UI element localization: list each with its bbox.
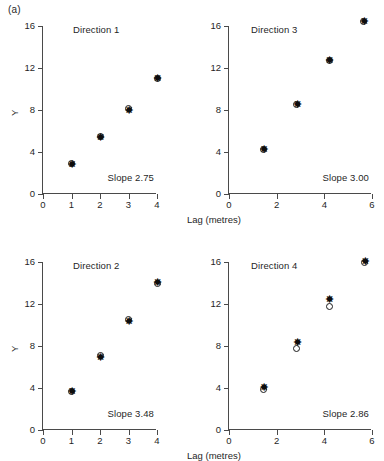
asterisk-marker: ✸ [68,161,76,169]
x-tick-label: 0 [35,436,51,446]
y-tick [38,304,43,305]
x-tick-label: 2 [92,436,108,446]
y-tick-label: 4 [19,147,35,157]
x-axis-title: Lag (metres) [187,450,241,461]
chart-panel-3: 048121601234Direction 2Slope 3.48Y✸✸✸✸ [42,262,156,430]
y-tick [224,26,229,27]
y-tick-label: 16 [205,257,221,267]
y-tick [224,388,229,389]
x-tick-label: 4 [316,436,332,446]
x-tick-label: 3 [121,200,137,210]
y-tick-label: 8 [205,341,221,351]
slope-annotation: Slope 2.75 [108,172,154,183]
y-tick-label: 0 [19,189,35,199]
asterisk-marker: ✸ [125,107,133,115]
slope-annotation: Slope 3.00 [323,172,369,183]
y-tick [224,110,229,111]
y-tick [224,262,229,263]
x-tick-label: 1 [64,436,80,446]
y-tick-label: 0 [19,425,35,435]
asterisk-marker: ✸ [68,388,76,396]
x-tick-label: 0 [221,436,237,446]
y-axis-title: Y [9,110,20,116]
asterisk-marker: ✸ [360,18,368,26]
asterisk-marker: ✸ [96,134,104,142]
y-tick-label: 12 [205,299,221,309]
x-tick-label: 4 [149,200,165,210]
asterisk-marker: ✸ [260,146,268,154]
y-tick [38,346,43,347]
asterisk-marker: ✸ [96,354,104,362]
y-tick-label: 4 [205,147,221,157]
y-tick [38,152,43,153]
x-tick-label: 1 [64,200,80,210]
panel-title: Direction 1 [73,24,120,35]
slope-annotation: Slope 3.48 [108,408,154,419]
y-tick [224,152,229,153]
asterisk-marker: ✸ [260,384,268,392]
asterisk-marker: ✸ [125,318,133,326]
plot-area: 04812160246Direction 4Slope 2.86Lag (met… [228,262,371,430]
chart-panel-1: 048121601234Direction 1Slope 2.75Y✸✸✸✸ [42,26,156,194]
x-tick-label: 0 [35,200,51,210]
y-tick [38,388,43,389]
asterisk-marker: ✸ [153,75,161,83]
y-tick [38,26,43,27]
y-tick [224,68,229,69]
asterisk-marker: ✸ [325,57,333,65]
y-tick [38,110,43,111]
plot-area: 04812160246Direction 3Slope 3.00Lag (met… [228,26,371,194]
x-tick-label: 2 [269,436,285,446]
y-tick-label: 16 [19,257,35,267]
asterisk-marker: ✸ [153,279,161,287]
panel-title: Direction 3 [251,24,298,35]
y-tick-label: 16 [19,21,35,31]
x-tick-label: 3 [121,436,137,446]
y-tick-label: 4 [19,383,35,393]
panel-title: Direction 2 [73,260,120,271]
asterisk-marker: ✸ [293,101,301,109]
y-tick-label: 0 [205,189,221,199]
x-tick-label: 4 [316,200,332,210]
x-axis-title: Lag (metres) [187,214,241,225]
plot-area: 048121601234Direction 2Slope 3.48Y✸✸✸✸ [42,262,156,430]
y-tick-label: 4 [205,383,221,393]
x-tick-label: 6 [364,200,380,210]
y-tick [224,346,229,347]
y-tick-label: 12 [19,299,35,309]
slope-annotation: Slope 2.86 [323,408,369,419]
plot-area: 048121601234Direction 1Slope 2.75Y✸✸✸✸ [42,26,156,194]
y-tick-label: 8 [19,341,35,351]
y-tick-label: 8 [19,105,35,115]
chart-panel-4: 04812160246Direction 4Slope 2.86Lag (met… [228,262,371,430]
y-tick-label: 16 [205,21,221,31]
y-tick-label: 12 [19,63,35,73]
x-tick-label: 2 [269,200,285,210]
y-tick-label: 0 [205,425,221,435]
panel-title: Direction 4 [251,260,298,271]
figure-panel-letter: (a) [8,4,21,15]
asterisk-marker: ✸ [293,339,301,347]
y-tick [224,304,229,305]
chart-panel-2: 04812160246Direction 3Slope 3.00Lag (met… [228,26,371,194]
asterisk-marker: ✸ [361,258,369,266]
asterisk-marker: ✸ [325,296,333,304]
x-tick-label: 4 [149,436,165,446]
y-tick [38,68,43,69]
y-axis-title: Y [9,346,20,352]
y-tick-label: 8 [205,105,221,115]
x-tick-label: 6 [364,436,380,446]
x-tick-label: 0 [221,200,237,210]
y-tick [38,262,43,263]
x-tick-label: 2 [92,200,108,210]
y-tick-label: 12 [205,63,221,73]
